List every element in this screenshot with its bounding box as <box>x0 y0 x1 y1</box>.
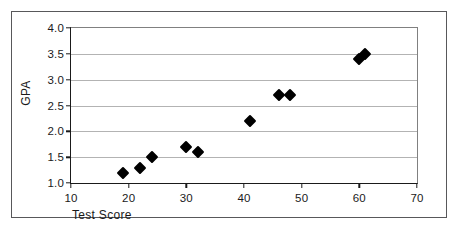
y-tick-mark <box>66 105 71 106</box>
x-tick-label: 70 <box>410 192 423 204</box>
x-tick-label: 20 <box>122 192 135 204</box>
x-tick-label: 50 <box>295 192 308 204</box>
plot-area: 1.01.52.02.53.03.54.010203040506070 <box>70 27 418 184</box>
y-tick-label: 2.0 <box>47 125 64 137</box>
y-tick-label: 2.5 <box>47 100 64 112</box>
y-gridline <box>71 131 417 132</box>
x-tick-mark <box>416 183 417 188</box>
x-tick-mark <box>70 183 71 188</box>
y-tick-label: 3.5 <box>47 48 64 60</box>
data-point <box>243 115 256 128</box>
x-tick-mark <box>243 183 244 188</box>
y-tick-mark <box>66 27 71 28</box>
y-gridline <box>71 80 417 81</box>
y-gridline <box>71 157 417 158</box>
y-tick-label: 1.5 <box>47 151 64 163</box>
x-tick-mark <box>128 183 129 188</box>
x-tick-mark <box>359 183 360 188</box>
y-tick-label: 1.0 <box>47 177 64 189</box>
y-tick-label: 4.0 <box>47 22 64 34</box>
y-tick-mark <box>66 156 71 157</box>
x-tick-label: 40 <box>237 192 250 204</box>
data-point <box>284 89 297 102</box>
x-tick-mark <box>186 183 187 188</box>
y-axis-title: GPA <box>19 80 33 105</box>
y-tick-mark <box>66 79 71 80</box>
x-tick-label: 60 <box>353 192 366 204</box>
x-axis-title: Test Score <box>72 208 132 222</box>
x-tick-mark <box>301 183 302 188</box>
x-tick-label: 30 <box>180 192 193 204</box>
data-point <box>134 161 147 174</box>
y-tick-mark <box>66 131 71 132</box>
data-point <box>117 166 130 179</box>
y-tick-label: 3.0 <box>47 74 64 86</box>
y-gridline <box>71 106 417 107</box>
x-tick-label: 10 <box>64 192 77 204</box>
scatter-plot-figure: GPA Test Score 1.01.52.02.53.03.54.01020… <box>0 0 460 241</box>
data-point <box>145 151 158 164</box>
y-tick-mark <box>66 53 71 54</box>
